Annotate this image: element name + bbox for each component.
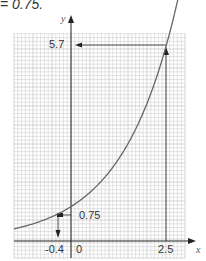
y-axis-arrow-icon [68, 15, 74, 23]
graph [0, 0, 206, 261]
y-axis-label: y [61, 13, 65, 24]
label-neg-0-4: -0.4 [45, 243, 64, 255]
label-origin: 0 [76, 243, 82, 255]
label-5-7: 5.7 [49, 38, 64, 50]
label-0-75: 0.75 [79, 209, 100, 221]
label-2-5: 2.5 [158, 243, 173, 255]
x-axis-arrow-icon [188, 238, 196, 244]
x-axis-label: x [196, 244, 200, 255]
curve-y-2x [14, 0, 178, 229]
